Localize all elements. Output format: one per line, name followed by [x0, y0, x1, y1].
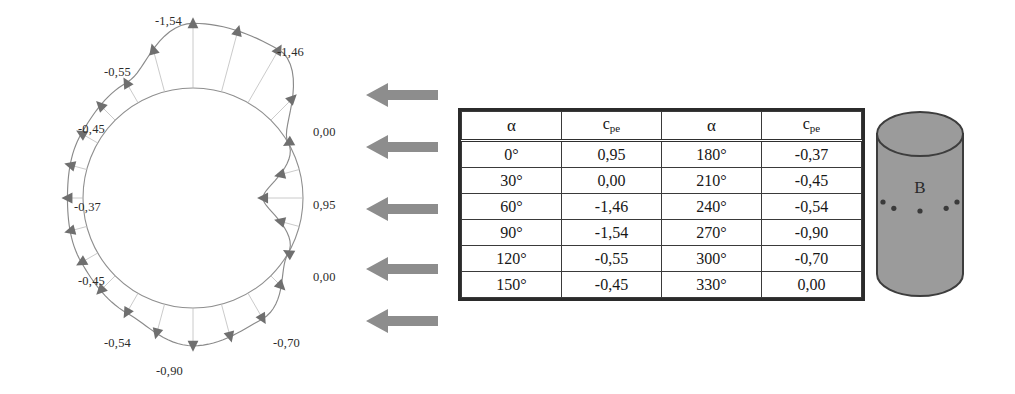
- cell-alpha-right: 330°: [662, 272, 762, 298]
- cpe-arrow: [61, 193, 72, 204]
- table-row: 60°-1,46240°-0,54: [462, 194, 862, 220]
- cell-cpe-left: 0,00: [562, 168, 662, 194]
- cell-cpe-right: 0,00: [762, 272, 862, 298]
- cpe-table-border: α cpe α cpe 0°0,95180°-0,3730°0,00210°-: [458, 108, 865, 301]
- cpe-arrow: [274, 168, 286, 178]
- cell-cpe-left: -0,45: [562, 272, 662, 298]
- cpe-arrow: [153, 327, 163, 339]
- cpe-value-label-right-lower: 0,00: [313, 270, 336, 285]
- col-header-alpha-1: α: [462, 112, 562, 141]
- cpe-spoke: [248, 50, 279, 103]
- cpe-spoke: [153, 49, 164, 91]
- table-row: 30°0,00210°-0,45: [462, 168, 862, 194]
- wind-arrow-5: [366, 308, 438, 334]
- cpe-distribution-curve: [67, 23, 293, 345]
- cpe-value-label-left-upper: -0,45: [78, 122, 105, 137]
- cpe-spoke: [221, 31, 237, 92]
- table-row: 150°-0,45330°0,00: [462, 272, 862, 298]
- cylinder-figure: B: [866, 106, 974, 306]
- figure-canvas: -1,54-1,46-0,55-0,45-0,37-0,45-0,54-0,90…: [0, 0, 1015, 394]
- cpe-value-label-right-upper: 0,00: [313, 125, 336, 140]
- cpe-table-container: α cpe α cpe 0°0,95180°-0,3730°0,00210°-: [458, 108, 865, 305]
- pressure-distribution-diagram: -1,54-1,46-0,55-0,45-0,37-0,45-0,54-0,90…: [0, 0, 360, 394]
- cell-alpha-left: 120°: [462, 246, 562, 272]
- cylinder-top-ellipse: [877, 112, 963, 156]
- cpe-arrow: [64, 224, 76, 234]
- cylinder-tap-point: [880, 199, 885, 204]
- cpe-table-head: α cpe α cpe: [462, 112, 862, 141]
- cylinder-label: B: [866, 178, 974, 198]
- wind-direction-arrows: [366, 70, 450, 340]
- cpe-value-label-right: 0,95: [313, 198, 336, 213]
- cylinder-svg: [866, 106, 974, 306]
- cpe-table: α cpe α cpe 0°0,95180°-0,3730°0,00210°-: [461, 111, 862, 298]
- cpe-value-label-left: -0,37: [74, 200, 101, 215]
- cpe-table-body: 0°0,95180°-0,3730°0,00210°-0,4560°-1,462…: [462, 141, 862, 298]
- cell-alpha-left: 0°: [462, 141, 562, 168]
- cell-alpha-left: 60°: [462, 194, 562, 220]
- cpe-arrow: [188, 17, 199, 28]
- wind-arrow-3: [366, 196, 438, 222]
- cpe-arrow-group: [61, 17, 296, 352]
- cell-alpha-right: 210°: [662, 168, 762, 194]
- cpe-arrow: [257, 193, 268, 204]
- cell-cpe-left: 0,95: [562, 141, 662, 168]
- cell-cpe-right: -0,54: [762, 194, 862, 220]
- cpe-arrow: [188, 341, 199, 352]
- cpe-value-label-upper-right: -1,46: [277, 45, 304, 60]
- wind-arrow-4: [366, 256, 438, 282]
- subscript-pe-1: pe: [610, 123, 620, 135]
- cell-alpha-left: 90°: [462, 220, 562, 246]
- cpe-value-label-lower-left: -0,54: [104, 336, 131, 351]
- cpe-value-label-left-lower: -0,45: [78, 274, 105, 289]
- cell-cpe-left: -1,46: [562, 194, 662, 220]
- polar-diagram-svg: [0, 0, 360, 394]
- table-row: 90°-1,54270°-0,90: [462, 220, 862, 246]
- table-row: 0°0,95180°-0,37: [462, 141, 862, 168]
- table-row: 120°-0,55300°-0,70: [462, 246, 862, 272]
- cpe-table-header-row: α cpe α cpe: [462, 112, 862, 141]
- wind-arrow-2: [366, 134, 438, 160]
- cylinder-tap-point: [891, 206, 896, 211]
- cylinder-tap-point: [944, 206, 949, 211]
- cell-cpe-left: -1,54: [562, 220, 662, 246]
- cell-cpe-left: -0,55: [562, 246, 662, 272]
- cpe-arrow: [149, 44, 159, 56]
- cell-cpe-right: -0,90: [762, 220, 862, 246]
- wind-arrow-1: [366, 82, 438, 108]
- cell-alpha-right: 270°: [662, 220, 762, 246]
- cell-alpha-right: 300°: [662, 246, 762, 272]
- col-header-cpe-2: cpe: [762, 112, 862, 141]
- cpe-value-label-top: -1,54: [155, 14, 182, 29]
- cell-alpha-right: 180°: [662, 141, 762, 168]
- cpe-spoke: [221, 304, 230, 336]
- cpe-value-label-bottom: -0,90: [156, 364, 183, 379]
- cell-alpha-right: 240°: [662, 194, 762, 220]
- cell-cpe-right: -0,70: [762, 246, 862, 272]
- cpe-value-label-lower-right: -0,70: [273, 336, 300, 351]
- cpe-arrow: [64, 161, 76, 171]
- cpe-spokes: [67, 23, 303, 345]
- cpe-arrow: [231, 25, 241, 37]
- subscript-pe-2: pe: [810, 123, 820, 135]
- cell-cpe-right: -0,45: [762, 168, 862, 194]
- cell-alpha-left: 150°: [462, 272, 562, 298]
- col-header-alpha-2: α: [662, 112, 762, 141]
- cpe-value-label-upper-left: -0,55: [104, 65, 131, 80]
- cylinder-tap-point: [954, 199, 959, 204]
- cpe-arrow: [274, 217, 286, 227]
- cell-cpe-right: -0,37: [762, 141, 862, 168]
- cylinder-body: [877, 134, 963, 296]
- cpe-arrow: [224, 331, 234, 343]
- cylinder-tap-point: [917, 208, 922, 213]
- cell-alpha-left: 30°: [462, 168, 562, 194]
- col-header-cpe-1: cpe: [562, 112, 662, 141]
